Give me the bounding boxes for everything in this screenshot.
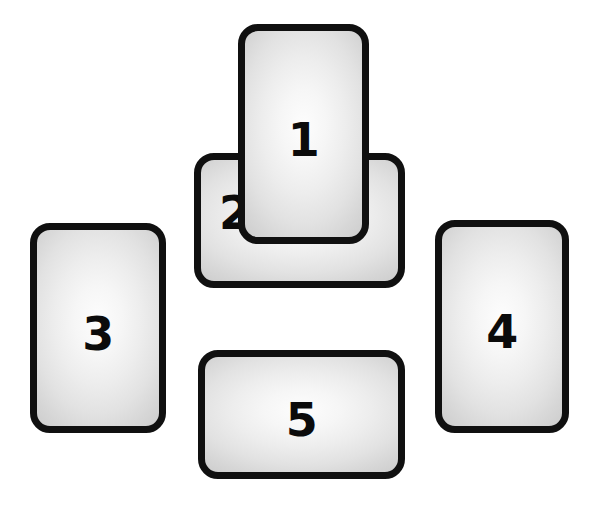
card-5[interactable]: 5	[198, 350, 405, 479]
card-1-label: 1	[245, 117, 362, 163]
card-4-label: 4	[442, 309, 562, 355]
card-3-label: 3	[37, 311, 159, 357]
card-3[interactable]: 3	[30, 223, 166, 433]
card-1[interactable]: 1	[238, 24, 369, 244]
card-layout-canvas: 2 1 3 4 5	[0, 0, 594, 520]
card-4[interactable]: 4	[435, 220, 569, 433]
card-5-label: 5	[205, 397, 398, 443]
